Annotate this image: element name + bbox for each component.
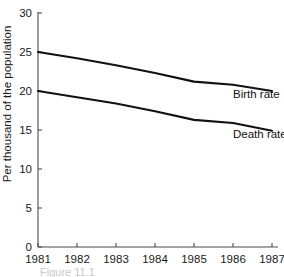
x-tick-label: 1984 (142, 253, 168, 265)
x-tick-label: 1987 (259, 253, 284, 265)
chart-container: 0510152025301981198219831984198519861987… (0, 0, 284, 277)
series-label-birth-rate: Birth rate (233, 88, 280, 100)
y-tick-label: 20 (19, 85, 32, 97)
x-tick-label: 1986 (220, 253, 246, 265)
figure-caption: Figure 11.1 (40, 266, 95, 277)
series-label-death-rate: Death rate (233, 128, 284, 140)
x-tick-label: 1985 (181, 253, 207, 265)
y-tick-label: 0 (26, 241, 32, 253)
y-tick-label: 25 (19, 46, 32, 58)
y-tick-label: 15 (19, 124, 32, 136)
y-tick-label: 5 (26, 202, 32, 214)
x-tick-label: 1983 (103, 253, 129, 265)
series-line-birth-rate (38, 52, 272, 91)
x-tick-label: 1981 (25, 253, 51, 265)
line-chart: 0510152025301981198219831984198519861987… (0, 0, 284, 277)
y-axis-title: Per thousand of the population (1, 26, 13, 183)
x-tick-label: 1982 (64, 253, 90, 265)
y-tick-label: 10 (19, 163, 32, 175)
y-tick-label: 30 (19, 7, 32, 19)
